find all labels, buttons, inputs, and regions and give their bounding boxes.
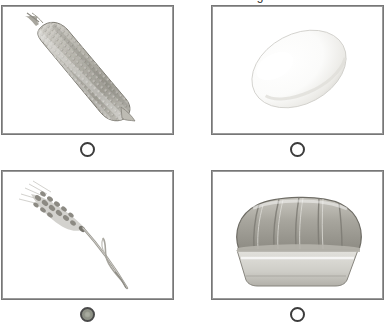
option-cell-bread[interactable] [212,171,387,329]
radio-option-bread[interactable] [290,307,305,322]
image-panel-wheat [2,171,173,299]
option-grid [0,0,387,333]
quiz-page: Which of these is made from grain? [0,0,387,333]
image-panel-corn [2,6,173,134]
choice-row-bread [212,299,383,329]
bread-loaf-image [213,172,382,298]
egg-image [213,7,382,133]
choice-row-wheat [2,299,173,329]
option-cell-corn[interactable] [2,6,177,164]
option-cell-egg[interactable] [212,6,387,164]
image-panel-egg [212,6,383,134]
choice-row-corn [2,134,173,164]
option-cell-wheat[interactable] [2,171,177,329]
radio-option-wheat[interactable] [80,307,95,322]
image-panel-bread [212,171,383,299]
wheat-stalk-image [3,172,172,298]
choice-row-egg [212,134,383,164]
corn-cob-image [3,7,172,133]
radio-option-corn[interactable] [80,142,95,157]
radio-option-egg[interactable] [290,142,305,157]
